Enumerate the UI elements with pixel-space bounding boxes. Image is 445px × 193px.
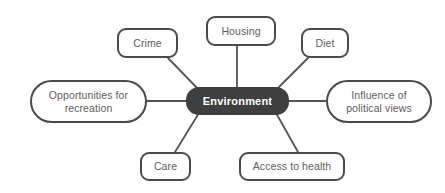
node-housing[interactable]: Housing bbox=[206, 16, 276, 46]
edge-center-to-crime bbox=[168, 58, 199, 90]
edge-center-to-diet bbox=[276, 58, 308, 90]
node-diet-label: Diet bbox=[311, 37, 338, 50]
edge-center-to-access bbox=[276, 113, 298, 152]
node-crime[interactable]: Crime bbox=[117, 28, 178, 58]
edge-center-to-care bbox=[175, 113, 199, 152]
node-opportunities[interactable]: Opportunities forrecreation bbox=[30, 80, 147, 123]
node-crime-label: Crime bbox=[129, 37, 166, 50]
node-opportunities-label: Opportunities forrecreation bbox=[45, 89, 132, 114]
node-diet[interactable]: Diet bbox=[301, 28, 349, 58]
node-influence-label: Influence ofpolitical views bbox=[342, 89, 416, 114]
center-node-environment[interactable]: Environment bbox=[186, 87, 289, 115]
node-access[interactable]: Access to health bbox=[239, 152, 345, 181]
mind-map-diagram: Environment HousingCrimeDietOpportunitie… bbox=[0, 0, 445, 193]
center-node-label: Environment bbox=[203, 95, 272, 107]
node-access-label: Access to health bbox=[249, 160, 336, 173]
node-influence[interactable]: Influence ofpolitical views bbox=[326, 80, 432, 123]
node-care[interactable]: Care bbox=[140, 152, 191, 181]
node-care-label: Care bbox=[150, 160, 181, 173]
node-housing-label: Housing bbox=[217, 25, 264, 38]
